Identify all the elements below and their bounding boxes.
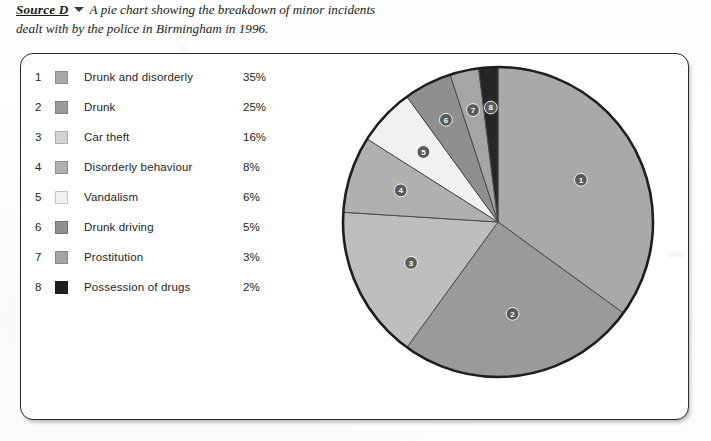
legend-row: 6Drunk driving5% <box>35 212 285 242</box>
legend-number: 3 <box>35 131 55 143</box>
pie-slice-badge-label: 5 <box>421 148 426 157</box>
legend-row: 5Vandalism6% <box>35 182 285 212</box>
legend-percentage: 3% <box>243 251 285 263</box>
pie-slice-badge-label: 7 <box>471 106 476 115</box>
scan-artifact <box>668 252 684 257</box>
legend-number: 1 <box>35 71 55 83</box>
legend-number: 8 <box>35 281 55 293</box>
legend-percentage: 8% <box>243 161 285 173</box>
legend-color-swatch <box>55 191 68 204</box>
legend-color-swatch <box>55 71 68 84</box>
pie-chart-svg: 12345678 <box>333 62 663 382</box>
legend-category-label: Drunk driving <box>84 221 243 233</box>
legend-category-label: Drunk <box>84 101 243 113</box>
legend-percentage: 16% <box>243 131 285 143</box>
legend-number: 2 <box>35 101 55 113</box>
legend-color-swatch <box>55 161 68 174</box>
legend-category-label: Drunk and disorderly <box>84 71 243 83</box>
legend-color-swatch <box>55 101 68 114</box>
pie-chart: 12345678 <box>333 62 663 382</box>
source-caption: Source DA pie chart showing the breakdow… <box>16 0 376 38</box>
legend-color-swatch <box>55 251 68 264</box>
legend-number: 6 <box>35 221 55 233</box>
legend-percentage: 2% <box>243 281 285 293</box>
triangle-down-icon <box>74 7 84 12</box>
legend-color-swatch <box>55 281 68 294</box>
pie-slice-badge-label: 2 <box>510 310 515 319</box>
legend-percentage: 35% <box>243 71 285 83</box>
legend-color-swatch <box>55 131 68 144</box>
legend-percentage: 5% <box>243 221 285 233</box>
source-label: Source D <box>16 2 69 17</box>
pie-slice-badge-label: 6 <box>444 116 449 125</box>
pie-slice-badge-label: 4 <box>398 186 403 195</box>
legend-row: 7Prostitution3% <box>35 242 285 272</box>
legend-number: 5 <box>35 191 55 203</box>
legend-row: 1Drunk and disorderly35% <box>35 62 285 92</box>
legend-percentage: 6% <box>243 191 285 203</box>
legend-row: 4Disorderly behaviour8% <box>35 152 285 182</box>
legend-row: 2Drunk25% <box>35 92 285 122</box>
legend-number: 4 <box>35 161 55 173</box>
legend-color-swatch <box>55 221 68 234</box>
caption-text: A pie chart showing the breakdown of min… <box>16 2 375 36</box>
legend-number: 7 <box>35 251 55 263</box>
legend-category-label: Prostitution <box>84 251 243 263</box>
legend-category-label: Car theft <box>84 131 243 143</box>
scan-artifact <box>180 46 185 54</box>
legend-category-label: Vandalism <box>84 191 243 203</box>
legend-row: 8Possession of drugs2% <box>35 272 285 302</box>
legend-row: 3Car theft16% <box>35 122 285 152</box>
legend-category-label: Possession of drugs <box>84 281 243 293</box>
pie-slice-badge-label: 1 <box>579 176 584 185</box>
pie-slice-badge-label: 8 <box>489 103 494 112</box>
legend-category-label: Disorderly behaviour <box>84 161 243 173</box>
pie-slices <box>343 67 653 377</box>
pie-slice-badge-label: 3 <box>409 259 414 268</box>
pie-legend: 1Drunk and disorderly35%2Drunk25%3Car th… <box>35 62 285 302</box>
legend-percentage: 25% <box>243 101 285 113</box>
